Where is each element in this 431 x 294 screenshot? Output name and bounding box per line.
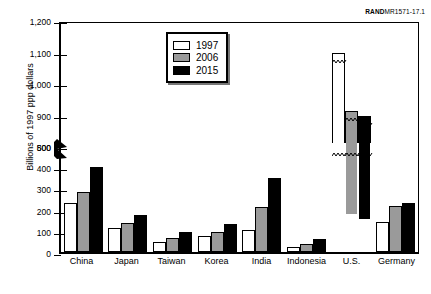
bar (224, 224, 237, 252)
y-axis-tick: 200 (54, 213, 61, 214)
bar (64, 203, 77, 252)
bar (313, 239, 326, 252)
bar (153, 242, 166, 252)
bar (332, 53, 345, 143)
bar (242, 230, 255, 252)
bar (211, 232, 224, 252)
legend-label-1997: 1997 (196, 40, 218, 51)
bar (402, 203, 415, 252)
bar (376, 222, 389, 252)
bar (77, 192, 90, 252)
y-axis-tick: 1,000 (54, 86, 61, 87)
x-axis-label: Germany (374, 256, 419, 266)
bar (121, 223, 134, 252)
bar (389, 206, 402, 252)
bar-lower-segment (359, 117, 370, 219)
bar (255, 207, 268, 252)
bar (268, 178, 281, 252)
y-axis-tick-label: 1,100 (30, 49, 51, 59)
bar (300, 244, 313, 252)
bar (108, 228, 121, 252)
y-axis-tick-label: 400 (37, 164, 51, 174)
y-axis-tick-label: 1,000 (30, 80, 51, 90)
y-axis-tick: 900 (54, 118, 61, 119)
credit-bold-text: RAND (365, 8, 384, 15)
x-axis-label: Indonesia (284, 256, 329, 266)
y-axis-tick-label: 200 (37, 207, 51, 217)
y-axis-tick: 100 (54, 234, 61, 235)
bar-groups (61, 23, 418, 252)
legend-swatch-1997 (173, 41, 190, 50)
y-axis-tick-label: 900 (37, 112, 51, 122)
x-axis-label: Japan (104, 256, 149, 266)
bar-break-icon (332, 50, 347, 55)
plot-area: 01002003004005008009001,0001,1001,200 (59, 22, 419, 254)
bar-group (373, 23, 418, 252)
bar (198, 236, 211, 252)
x-axis-label: Taiwan (149, 256, 194, 266)
bar-break-icon (358, 113, 373, 118)
bar-lower-segment (333, 54, 344, 156)
x-axis-label: India (239, 256, 284, 266)
bar (179, 232, 192, 252)
bar (345, 111, 358, 143)
bar-group (329, 23, 374, 252)
chart-figure: RANDMR1571-17.1 Billions of 1997 ppp dol… (0, 0, 431, 294)
chart-legend: 1997 2006 2015 (166, 32, 228, 83)
bar-lower-segment (346, 112, 357, 214)
source-credit: RANDMR1571-17.1 (365, 8, 425, 15)
y-axis-tick-label: 100 (37, 228, 51, 238)
bar (134, 215, 147, 252)
legend-label-2006: 2006 (196, 52, 218, 63)
legend-item: 2015 (173, 65, 218, 76)
y-axis-tick: 1,100 (54, 55, 61, 56)
bar (358, 116, 371, 143)
y-axis-tick: 400 (54, 170, 61, 171)
bar-group (284, 23, 329, 252)
bar (166, 238, 179, 252)
bar (287, 247, 300, 252)
y-axis-tick: 300 (54, 191, 61, 192)
y-axis-tick-label: 800 (37, 143, 51, 153)
credit-rest-text: MR1571-17.1 (385, 8, 425, 15)
bar-break-icon (358, 143, 373, 148)
y-axis-tick-label: 300 (37, 185, 51, 195)
x-axis-label: Korea (194, 256, 239, 266)
legend-swatch-2006 (173, 53, 190, 62)
legend-item: 1997 (173, 40, 218, 51)
bar (90, 167, 103, 252)
y-axis-tick-label: 1,200 (30, 17, 51, 27)
bar-group (240, 23, 285, 252)
x-axis-label: U.S. (329, 256, 374, 266)
x-axis-label: China (59, 256, 104, 266)
legend-item: 2006 (173, 52, 218, 63)
x-axis-labels: ChinaJapanTaiwanKoreaIndiaIndonesiaU.S.G… (59, 256, 419, 266)
legend-label-2015: 2015 (196, 65, 218, 76)
legend-swatch-2015 (173, 66, 190, 75)
bar-group (106, 23, 151, 252)
y-axis-tick-label: 0 (46, 249, 51, 259)
bar-group (61, 23, 106, 252)
y-axis-tick: 1,200 (54, 23, 61, 24)
